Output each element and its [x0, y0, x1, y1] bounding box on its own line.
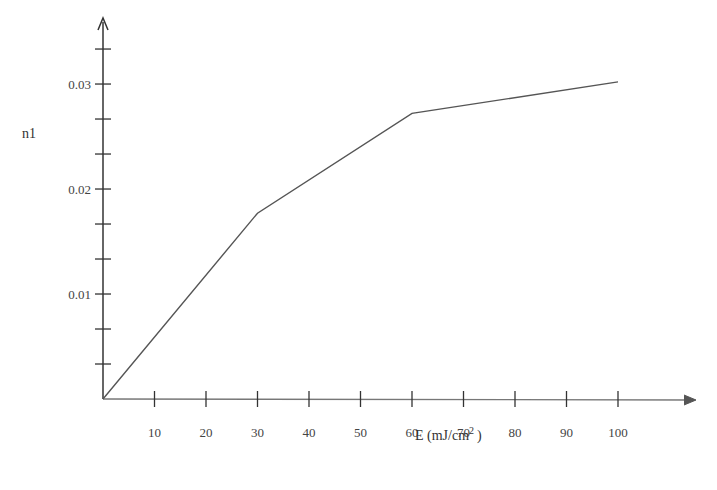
x-axis-label: E (mJ/cm2) [415, 425, 482, 444]
x-tick-label: 50 [354, 425, 367, 440]
x-tick-label: 80 [509, 425, 522, 440]
y-tick-label: 0.02 [68, 182, 91, 197]
x-tick-label: 100 [608, 425, 628, 440]
y-tick-label: 0.03 [68, 77, 91, 92]
y-tick-labels: 0.010.020.03 [68, 77, 91, 302]
x-axis: 102030405060708090100 [103, 391, 696, 440]
y-axis-label: n1 [22, 126, 36, 141]
x-tick-label: 20 [200, 425, 213, 440]
x-tick-labels: 102030405060708090100 [148, 425, 628, 440]
x-axis-arrow-icon [684, 395, 696, 405]
line-chart: 0.010.020.03 n1 102030405060708090100 E … [0, 0, 717, 490]
data-line-n1 [103, 82, 618, 399]
x-tick-label: 40 [303, 425, 316, 440]
x-tick-label: 10 [148, 425, 161, 440]
x-tick-label: 30 [251, 425, 264, 440]
x-tick-label: 90 [560, 425, 573, 440]
y-tick-label: 0.01 [68, 287, 91, 302]
y-axis: 0.010.020.03 [68, 18, 111, 399]
